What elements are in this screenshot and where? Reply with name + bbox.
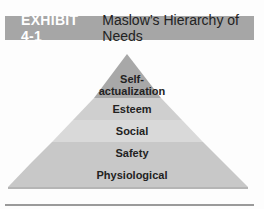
label-self-actualization-1: Self-	[0, 73, 264, 85]
label-self-actualization-2: actualization	[0, 85, 264, 97]
label-safety: Safety	[0, 147, 264, 159]
label-physiological: Physiological	[0, 169, 264, 181]
label-esteem: Esteem	[0, 103, 264, 115]
bottom-rule	[5, 204, 254, 206]
label-social: Social	[0, 125, 264, 137]
